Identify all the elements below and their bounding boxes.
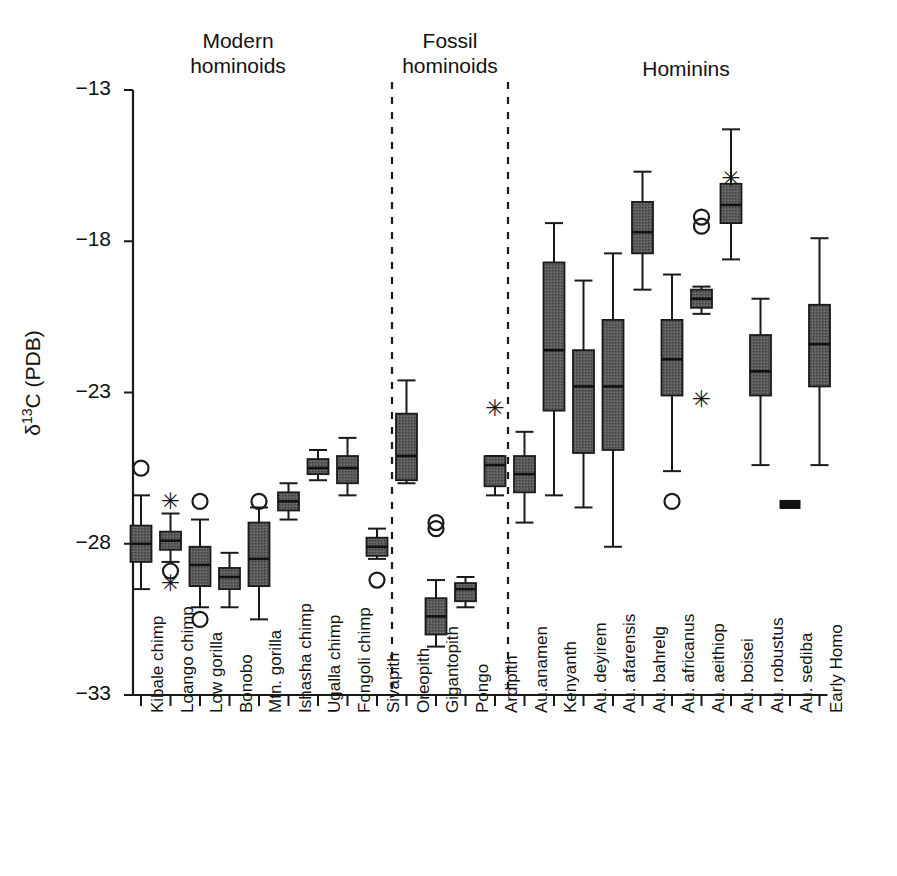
svg-text:✳: ✳	[692, 386, 711, 412]
box-plot-au-afarensis	[603, 253, 624, 546]
box-plot-mtn-gorilla	[249, 494, 270, 619]
svg-text:✳: ✳	[161, 488, 180, 514]
box-plot-au-africanus	[662, 275, 683, 509]
box-plot-kenyanth	[544, 223, 565, 495]
box-plot-gigantopith	[426, 515, 447, 647]
box-plot-bonobo	[219, 553, 240, 607]
box-plot-ardipith: ✳	[485, 395, 506, 496]
box-plot-pongo	[455, 577, 476, 607]
box-plot-oreopith	[396, 380, 417, 483]
box-plot-ishasha-chimp	[278, 483, 299, 519]
svg-text:✳: ✳	[161, 570, 180, 596]
box-plot-au-deyirem	[573, 281, 594, 508]
boxplot-canvas: ✳✳✳✳✳	[0, 0, 897, 876]
box-plot-au-boisei: ✳	[721, 129, 742, 259]
box-plot-au-bahrelg	[632, 172, 653, 290]
box-plot-early-homo	[809, 238, 830, 465]
box-plot-ugalla-chimp	[308, 450, 329, 480]
box-plot-au-anamen	[514, 432, 535, 523]
chart-figure: δ13C (PDB) Modern hominoidsFossil homino…	[0, 0, 897, 876]
box-plot-au-sediba	[780, 500, 800, 508]
box-plot-sivapith	[367, 529, 388, 588]
box-plot-low-gorilla	[190, 494, 211, 627]
svg-text:✳: ✳	[485, 395, 504, 421]
box-plot-au-robustus	[750, 299, 771, 465]
svg-text:✳: ✳	[721, 165, 740, 191]
box-plot-loango-chimp: ✳✳	[160, 488, 181, 596]
box-plot-au-aeithiop: ✳	[691, 210, 712, 412]
box-plot-fongoli-chimp	[337, 438, 358, 495]
